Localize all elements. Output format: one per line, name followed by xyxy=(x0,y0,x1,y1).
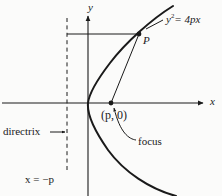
parabola-equation-label: y2= 4px xyxy=(166,13,200,25)
directrix-label: directrix xyxy=(3,126,40,137)
diagram-canvas xyxy=(0,0,222,196)
y-axis-label: y xyxy=(88,2,93,13)
x-axis-label: x xyxy=(210,96,215,107)
parabola-diagram: y x y2= 4px P (p, 0) directrix focus x =… xyxy=(0,0,222,196)
point-p-label: P xyxy=(143,35,150,46)
focus-coordinate-label: (p, 0) xyxy=(101,109,127,121)
directrix-equation-label: x = −p xyxy=(25,174,54,185)
focus-label: focus xyxy=(138,136,162,147)
focus-point-marker xyxy=(109,101,114,106)
equation-rhs: = 4px xyxy=(174,13,200,25)
point-p-marker xyxy=(137,32,142,37)
